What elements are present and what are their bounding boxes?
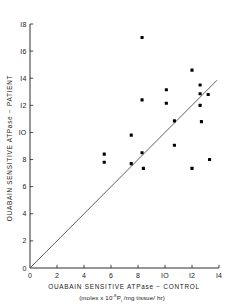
data-point	[141, 151, 144, 154]
y-tick-label: 6	[22, 183, 26, 190]
scatter-chart-figure: 02468IOI2I4 02468IOI2I4I6I8 OUABAIN SENS…	[0, 0, 234, 308]
identity-reference-line	[31, 80, 217, 267]
x-tick-label: IO	[161, 272, 169, 279]
y-tick-label: I2	[20, 102, 26, 109]
y-axis-ticks: 02468IOI2I4I6I8	[19, 21, 33, 272]
y-tick-label: I4	[20, 75, 26, 82]
x-axis-subtitle: (moles x 10-8Pi /mg tissue/ hr)	[79, 293, 165, 302]
x-tick-label: I4	[216, 272, 222, 279]
data-point	[165, 88, 168, 91]
y-tick-label: 8	[22, 156, 26, 163]
x-subtitle-suffix: /mg tissue/ hr)	[122, 294, 165, 301]
data-point	[190, 167, 193, 170]
y-tick-label: 0	[22, 265, 26, 272]
data-point	[103, 161, 106, 164]
y-tick-label: I8	[20, 21, 26, 28]
data-point	[103, 153, 106, 156]
data-point	[190, 69, 193, 72]
x-tick-label: 6	[109, 272, 113, 279]
y-tick-label: 2	[22, 237, 26, 244]
axes	[30, 24, 219, 268]
data-point	[208, 158, 211, 161]
data-point	[173, 119, 176, 122]
data-point	[200, 120, 203, 123]
data-point	[141, 36, 144, 39]
x-tick-label: I2	[189, 272, 195, 279]
x-subtitle-prefix: (moles x 10	[79, 294, 113, 301]
data-point	[207, 93, 210, 96]
x-tick-label: 2	[55, 272, 59, 279]
data-point	[173, 144, 176, 147]
data-point	[141, 98, 144, 101]
x-tick-label: 4	[82, 272, 86, 279]
x-axis-title: OUABAIN SENSITIVE ATPase − CONTROL	[48, 283, 200, 290]
chart-svg: 02468IOI2I4 02468IOI2I4I6I8 OUABAIN SENS…	[0, 0, 234, 308]
data-point	[199, 83, 202, 86]
x-axis-ticks: 02468IOI2I4	[28, 265, 222, 279]
y-tick-label: 4	[22, 210, 26, 217]
data-point	[199, 92, 202, 95]
data-point	[130, 162, 133, 165]
y-tick-label: I6	[20, 48, 26, 55]
y-axis-title: OUABAIN SENSITIVE ATPase − PATIENT	[6, 75, 13, 221]
x-tick-label: 0	[28, 272, 32, 279]
data-point	[165, 102, 168, 105]
data-point	[130, 134, 133, 137]
x-tick-label: 8	[136, 272, 140, 279]
data-point	[142, 167, 145, 170]
y-tick-label: IO	[19, 129, 27, 136]
data-point	[199, 104, 202, 107]
